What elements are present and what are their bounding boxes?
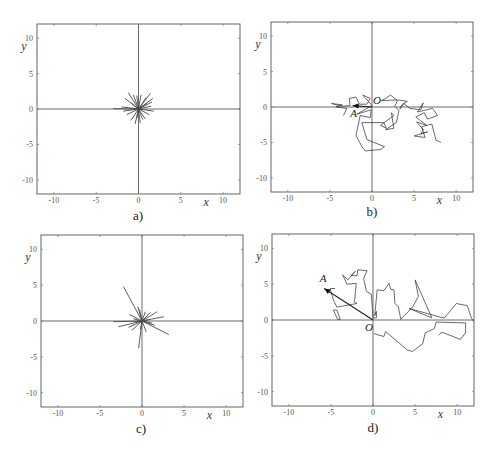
x-tick-label: -5 bbox=[328, 408, 335, 417]
panel-label: a) bbox=[133, 208, 143, 223]
y-tick-label: -5 bbox=[261, 352, 268, 361]
x-tick-label: 10 bbox=[219, 196, 227, 205]
y-tick-label: -5 bbox=[260, 138, 267, 147]
y-tick-label: -10 bbox=[26, 389, 37, 398]
panel-d: -10-50510-10-50510xyd)AO bbox=[255, 234, 474, 435]
figure-canvas: -10-50510-10-50510xya) -10-50510-10-5051… bbox=[0, 0, 498, 457]
x-tick-label: 5 bbox=[182, 409, 186, 418]
x-tick-label: 0 bbox=[140, 409, 144, 418]
panel-c: -10-50510-10-50510xyc) bbox=[24, 235, 243, 436]
x-tick-label: -5 bbox=[97, 409, 104, 418]
panel-label: c) bbox=[136, 421, 146, 436]
y-tick-label: 0 bbox=[33, 317, 37, 326]
y-tick-label: -5 bbox=[30, 353, 37, 362]
random-walk-path bbox=[373, 280, 474, 322]
x-tick-label: 5 bbox=[179, 196, 183, 205]
y-tick-label: 5 bbox=[33, 281, 37, 290]
random-walk-path bbox=[356, 95, 441, 151]
y-tick-label: -10 bbox=[257, 388, 268, 397]
y-tick-label: -10 bbox=[256, 174, 267, 183]
panel-a: -10-50510-10-50510xya) bbox=[20, 24, 240, 223]
x-axis-label: x bbox=[203, 195, 210, 209]
origin-o-label: O bbox=[373, 94, 381, 106]
y-tick-label: 0 bbox=[263, 103, 267, 112]
x-tick-label: -10 bbox=[49, 196, 60, 205]
panel-b: -10-50510-10-50510xyb)AO bbox=[254, 22, 473, 219]
x-tick-label: -5 bbox=[327, 194, 334, 203]
arrowhead-icon bbox=[324, 288, 330, 293]
x-tick-label: -5 bbox=[93, 196, 100, 205]
y-axis-label: y bbox=[255, 249, 262, 263]
x-tick-label: -10 bbox=[283, 408, 294, 417]
x-tick-label: 0 bbox=[137, 196, 141, 205]
y-axis-label: y bbox=[254, 37, 261, 51]
y-axis-label: y bbox=[20, 39, 27, 53]
x-tick-label: 10 bbox=[452, 194, 460, 203]
y-tick-label: 5 bbox=[264, 280, 268, 289]
panel-label: b) bbox=[367, 204, 378, 219]
x-axis-label: x bbox=[436, 193, 443, 207]
y-tick-label: 5 bbox=[263, 68, 267, 77]
x-tick-label: 0 bbox=[371, 408, 375, 417]
panel-label: d) bbox=[368, 420, 379, 435]
x-tick-label: 0 bbox=[370, 194, 374, 203]
random-walk-path bbox=[374, 322, 466, 351]
y-tick-label: 0 bbox=[264, 316, 268, 325]
x-axis-label: x bbox=[206, 408, 213, 422]
random-walk-path bbox=[333, 310, 340, 319]
displacement-ray bbox=[142, 321, 169, 335]
random-walk-path bbox=[330, 270, 373, 318]
x-tick-label: 5 bbox=[413, 408, 417, 417]
y-axis-label: y bbox=[24, 250, 31, 264]
origin-o-label: O bbox=[365, 321, 373, 333]
x-tick-label: -10 bbox=[52, 409, 63, 418]
x-tick-label: 10 bbox=[222, 409, 230, 418]
point-a-label: A bbox=[319, 272, 327, 284]
y-tick-label: 5 bbox=[29, 70, 33, 79]
x-axis-label: x bbox=[437, 407, 444, 421]
x-tick-label: -10 bbox=[282, 194, 293, 203]
x-tick-label: 5 bbox=[412, 194, 416, 203]
x-tick-label: 10 bbox=[453, 408, 461, 417]
y-tick-label: -5 bbox=[26, 140, 33, 149]
resultant-vector bbox=[324, 288, 373, 320]
point-a-label: A bbox=[349, 107, 357, 119]
y-tick-label: -10 bbox=[22, 176, 33, 185]
y-tick-label: 0 bbox=[29, 105, 33, 114]
